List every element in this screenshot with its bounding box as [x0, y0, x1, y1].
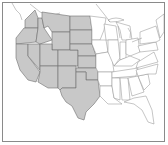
state-michigan	[116, 22, 132, 40]
state-tennessee	[112, 68, 138, 78]
highlighted-region	[16, 10, 100, 120]
state-kansas	[78, 56, 96, 68]
state-new-york	[140, 26, 160, 44]
state-north-dakota	[70, 16, 92, 30]
state-wyoming	[52, 32, 70, 50]
state-minnesota	[90, 16, 106, 40]
state-arkansas	[98, 72, 112, 86]
state-new-mexico	[58, 66, 76, 90]
state-oregon	[16, 28, 38, 44]
state-arizona	[38, 66, 58, 88]
state-colorado	[58, 50, 78, 66]
unhighlighted-region	[90, 14, 164, 124]
state-montana	[42, 12, 70, 32]
lake-superior	[108, 18, 124, 22]
state-wisconsin	[104, 24, 118, 40]
us-map	[0, 0, 168, 145]
state-indiana	[120, 42, 126, 60]
state-florida	[124, 96, 154, 124]
canada-coast	[12, 3, 22, 20]
state-south-dakota	[70, 30, 92, 44]
state-washington	[25, 10, 38, 28]
state-ohio	[126, 38, 140, 56]
